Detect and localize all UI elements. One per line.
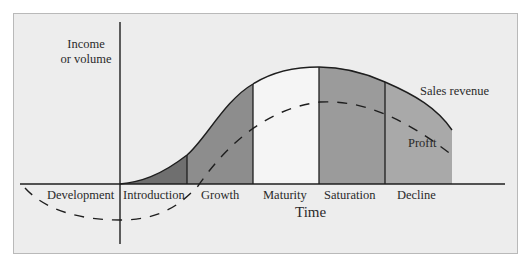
x-axis-label: Time — [295, 205, 326, 220]
stage-label-decline: Decline — [397, 189, 436, 202]
y-axis-label-line2: or volume — [56, 52, 116, 67]
introduction-region — [120, 155, 187, 184]
stage-label-growth: Growth — [201, 189, 239, 202]
growth-region — [187, 84, 253, 184]
profit-label: Profit — [408, 137, 436, 150]
saturation-region — [319, 67, 385, 184]
stage-label-development: Development — [47, 189, 114, 202]
y-axis-label-line1: Income — [56, 37, 116, 52]
stage-label-saturation: Saturation — [324, 189, 375, 202]
sales-revenue-label: Sales revenue — [420, 85, 489, 98]
y-axis-label: Income or volume — [56, 37, 116, 67]
maturity-region — [253, 67, 319, 184]
stage-label-introduction: Introduction — [123, 189, 185, 202]
stage-label-maturity: Maturity — [263, 189, 307, 202]
